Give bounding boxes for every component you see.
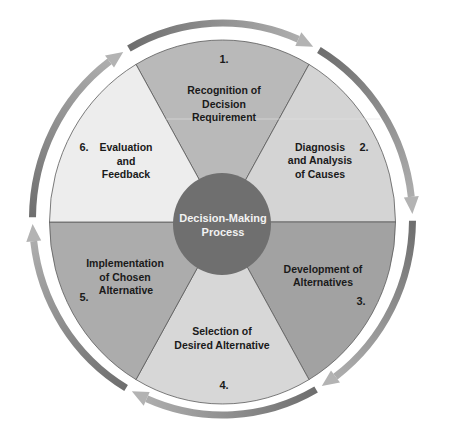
step-number: 3. <box>356 295 365 307</box>
arrowhead-icon <box>26 224 41 242</box>
step-label-line: Requirement <box>192 111 257 123</box>
step-label-line: Feedback <box>102 168 151 180</box>
step-number: 1. <box>219 53 228 65</box>
step-label-line: Desired Alternative <box>174 339 269 351</box>
step-number: 6. <box>79 141 88 153</box>
step-label-line: of Chosen <box>99 271 150 283</box>
step-label-line: Development of <box>284 263 363 275</box>
step-label-line: and <box>117 155 136 167</box>
step-label-line: Alternatives <box>293 276 353 288</box>
step-number: 2. <box>359 141 368 153</box>
step-number: 5. <box>79 291 88 303</box>
step-label-line: Recognition of <box>187 84 261 96</box>
step-label-line: Evaluation <box>99 141 152 153</box>
step-label-line: and Analysis <box>288 154 353 166</box>
decision-making-cycle-diagram: Decision-Making Process 1. Recognition o… <box>0 0 450 448</box>
step-label-line: Alternative <box>99 284 153 296</box>
step-label-line: Diagnosis <box>295 141 345 153</box>
center-title-line2: Process <box>202 226 245 238</box>
step-label-line: of Causes <box>295 168 345 180</box>
step-label-line: Implementation <box>86 257 164 269</box>
arrowhead-icon <box>404 196 419 214</box>
step-label-line: Selection of <box>192 325 252 337</box>
step-number: 4. <box>219 379 228 391</box>
center-hub <box>173 173 271 275</box>
step-label-line: Decision <box>202 98 246 110</box>
center-title-line1: Decision-Making <box>179 212 266 224</box>
